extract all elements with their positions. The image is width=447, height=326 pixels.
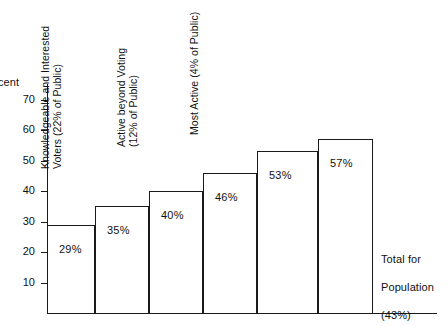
bar-category-label-line-1: Most Active (4% of Public) [189,12,201,135]
bar-category-label-line-1: Knowledgeable and Interested [40,26,52,169]
y-axis-tick-label: 20 [5,245,35,257]
bar-value-label: 29% [59,243,82,255]
bar [95,206,149,314]
y-axis-tick-label: 10 [5,276,35,288]
annotation-line-3: (43%) [381,308,434,322]
bar-chart: cent 70605040302010 29%Inactives35%Irreg… [0,0,447,326]
total-population-annotation: Total for Population (43%) [381,238,434,326]
bar-category-label-line-2: Voters (22% of Public) [52,26,64,169]
annotation-line-1: Total for [381,252,434,266]
bar-value-label: 35% [107,224,130,236]
bar-value-label: 57% [330,157,353,169]
y-axis-tick-mark [41,222,47,223]
bar-category-label: Most Active (4% of Public) [189,12,324,135]
bar-category-label-line-1: Active beyond Voting [116,48,128,147]
bar-category-label-line-2: (12% of Public) [128,48,140,147]
bar-value-label: 46% [215,191,238,203]
annotation-line-2: Population [381,280,434,294]
bar-value-label: 53% [269,169,292,181]
bar-value-label: 40% [161,209,184,221]
bar [47,225,95,314]
